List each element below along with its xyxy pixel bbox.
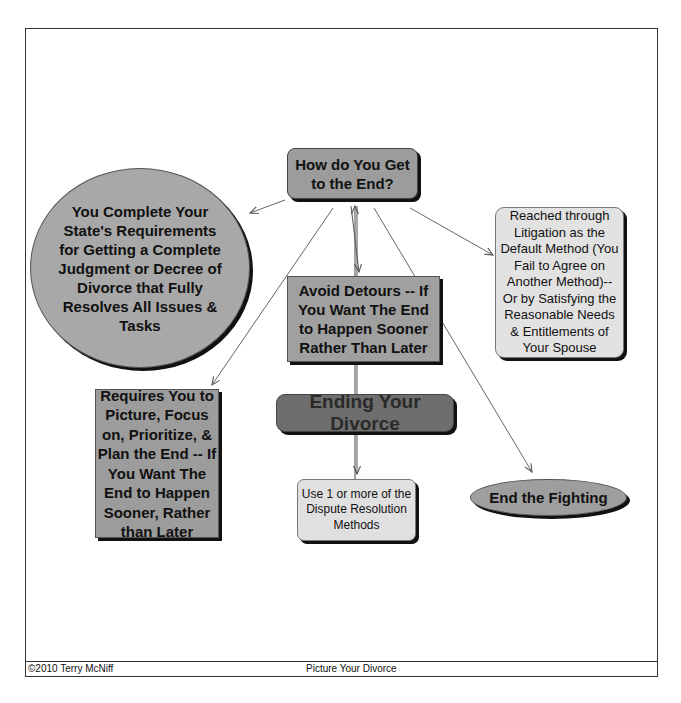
end-fighting-label: End the Fighting: [489, 489, 607, 506]
footer-copyright: ©2010 Terry McNiff: [28, 663, 113, 674]
ending-your-divorce-label: Ending Your Divorce: [277, 391, 453, 435]
requires-picture-node: Requires You to Picture, Focus on, Prior…: [95, 389, 219, 538]
avoid-detours-node: Avoid Detours -- If You Want The End to …: [287, 276, 440, 362]
end-fighting-node: End the Fighting: [470, 479, 627, 516]
center-question-label: How do You Get to the End?: [288, 155, 417, 193]
state-requirements-node: You Complete Your State's Requirements f…: [30, 168, 250, 368]
avoid-detours-label: Avoid Detours -- If You Want The End to …: [290, 281, 438, 357]
state-requirements-label: You Complete Your State's Requirements f…: [58, 202, 223, 335]
litigation-default-label: Reached through Litigation as the Defaul…: [499, 208, 621, 357]
page-footer: ©2010 Terry McNiff Picture Your Divorce: [25, 661, 658, 677]
litigation-default-node: Reached through Litigation as the Defaul…: [495, 207, 624, 358]
center-question-node: How do You Get to the End?: [287, 148, 418, 199]
ending-your-divorce-node: Ending Your Divorce: [276, 394, 454, 432]
requires-picture-label: Requires You to Picture, Focus on, Prior…: [97, 386, 217, 542]
dispute-methods-node: Use 1 or more of the Dispute Resolution …: [297, 479, 416, 541]
footer-title: Picture Your Divorce: [306, 663, 397, 674]
dispute-methods-label: Use 1 or more of the Dispute Resolution …: [301, 487, 413, 534]
